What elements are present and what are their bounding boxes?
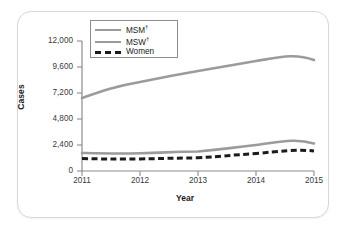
y-tick-label-7200: 7,200 xyxy=(31,88,73,97)
y-tick-label-0: 0 xyxy=(31,166,73,175)
y-tick-label-2400: 2,400 xyxy=(31,140,73,149)
series-line-msw xyxy=(82,141,314,154)
legend-swatch-msm xyxy=(95,29,121,31)
legend-swatch-women xyxy=(95,51,121,57)
x-tick-label-2015: 2015 xyxy=(294,176,334,185)
y-tick-label-4800: 4,800 xyxy=(31,114,73,123)
legend-label-msw: MSW† xyxy=(126,36,149,47)
x-axis-title: Year xyxy=(150,193,220,203)
legend-item-msm: MSM† xyxy=(95,24,177,36)
legend-label-msm: MSM† xyxy=(126,24,148,35)
y-tick-label-9600: 9,600 xyxy=(31,62,73,71)
line-chart: Cases 12,000 9,600 7,200 4,800 2,400 0 2… xyxy=(0,0,346,229)
legend-label-women-text: Women xyxy=(126,47,154,56)
legend-item-women: Women xyxy=(95,47,177,59)
y-axis-title: Cases xyxy=(16,67,26,127)
y-axis-ticks xyxy=(77,41,82,171)
x-tick-label-2011: 2011 xyxy=(62,176,102,185)
legend-label-msw-text: MSW xyxy=(126,38,146,47)
legend-label-msm-dagger: † xyxy=(145,24,148,30)
chart-legend: MSM† MSW† Women xyxy=(90,20,178,58)
legend-label-women: Women xyxy=(126,47,154,56)
series-line-msm xyxy=(82,56,314,98)
x-tick-label-2014: 2014 xyxy=(236,176,276,185)
x-tick-label-2012: 2012 xyxy=(120,176,160,185)
legend-label-msm-text: MSM xyxy=(126,26,145,35)
y-tick-label-12000: 12,000 xyxy=(31,36,73,45)
legend-label-msw-dagger: † xyxy=(146,36,149,42)
legend-swatch-msw xyxy=(95,41,121,43)
x-tick-label-2013: 2013 xyxy=(178,176,218,185)
